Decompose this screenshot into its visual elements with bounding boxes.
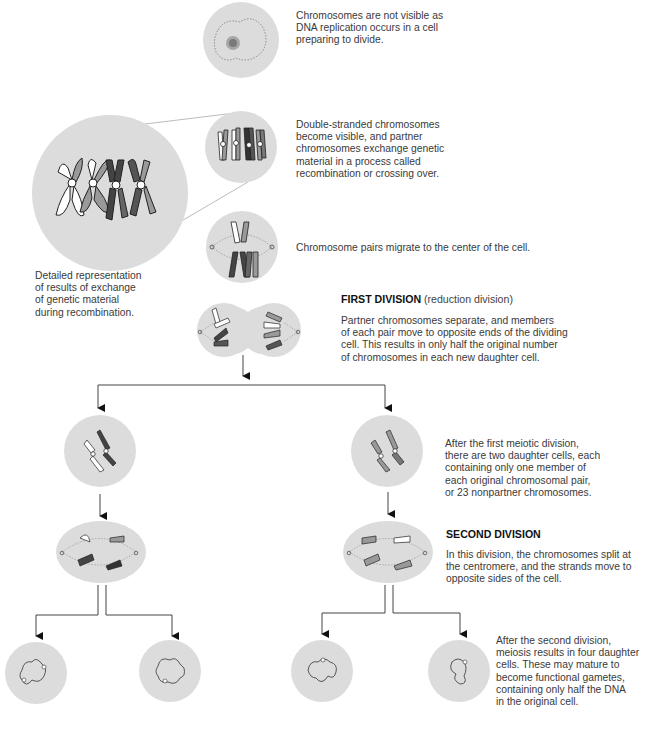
first-division-cell <box>197 303 301 357</box>
meiosis-diagram: Chromosomes are not visible as DNA repli… <box>0 0 658 731</box>
prophase-cell <box>205 111 277 183</box>
gamete-cell-1 <box>5 642 67 704</box>
gamete-arrows <box>36 585 460 636</box>
second-division-heading: SECOND DIVISION <box>446 528 541 541</box>
second-division-title: SECOND DIVISION <box>446 528 541 540</box>
daughter-cell-left <box>64 415 136 487</box>
detail-cell <box>32 115 188 271</box>
caption-first-division: Partner chromosomes separate, and member… <box>341 315 568 364</box>
gamete-cell-2 <box>139 640 201 702</box>
caption-metaphase-1: Chromosome pairs migrate to the center o… <box>296 242 530 254</box>
daughter-cell-right <box>351 415 423 487</box>
caption-daughter-cells: After the first meiotic division, there … <box>445 438 600 499</box>
second-division-arrows <box>100 492 388 516</box>
caption-second-division: In this division, the chromosomes split … <box>446 549 631 586</box>
metaphase-1-cell <box>206 211 278 283</box>
caption-interphase: Chromosomes are not visible as DNA repli… <box>296 10 443 47</box>
caption-gametes: After the second division, meiosis resul… <box>496 635 639 708</box>
first-division-heading: FIRST DIVISION (reduction division) <box>341 293 513 306</box>
first-division-title: FIRST DIVISION <box>341 293 421 305</box>
caption-detail: Detailed representation of results of ex… <box>35 270 141 319</box>
diagram-artwork <box>0 0 658 731</box>
gamete-cell-4 <box>428 640 490 702</box>
second-division-cell-right <box>343 521 433 583</box>
gamete-cell-3 <box>291 640 353 702</box>
second-division-cell-left <box>56 521 146 583</box>
first-division-note: (reduction division) <box>424 293 513 305</box>
interphase-cell <box>203 2 279 78</box>
caption-recombination: Double-stranded chromosomes become visib… <box>296 119 444 180</box>
